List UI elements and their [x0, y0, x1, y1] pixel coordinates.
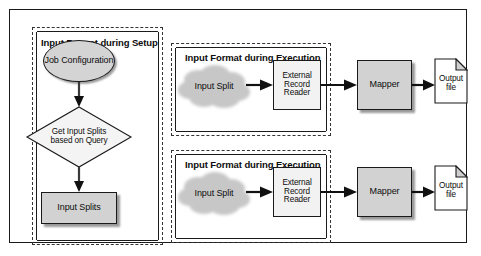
node-input-split-2: Input Split: [174, 169, 254, 219]
panel-inner-line-bottom: [176, 131, 326, 132]
arrow-right-icon-r2-3: [412, 185, 436, 199]
arrow-right-icon-r1-3: [412, 78, 436, 92]
node-external-record-reader-1-label: External Record Reader: [274, 61, 320, 109]
diagram-figure: Input Format during Setup Job Configurat…: [0, 0, 481, 256]
node-mapper-1: Mapper: [357, 60, 412, 110]
node-external-record-reader-2: External Record Reader: [273, 167, 321, 217]
node-mapper-2: Mapper: [357, 167, 412, 217]
panel-inner-line-right: [158, 32, 159, 240]
node-mapper-1-label: Mapper: [358, 61, 411, 109]
panel-inner-line-bottom: [176, 238, 326, 239]
node-input-split-1: Input Split: [174, 62, 254, 112]
panel-inner-line-top: [37, 31, 158, 32]
panel-inner-line-bottom: [37, 240, 158, 241]
arrow-right-icon-r1-1: [246, 78, 274, 92]
arrow-right-icon-r2-2: [321, 185, 358, 199]
arrow-down-icon-setup-2: [72, 167, 86, 193]
panel-inner-line-top: [176, 154, 326, 155]
node-input-splits: Input Splits: [41, 192, 117, 224]
node-job-configuration: Job Configuration: [43, 40, 115, 82]
node-external-record-reader-2-label: External Record Reader: [274, 168, 320, 216]
node-input-splits-label: Input Splits: [42, 193, 116, 223]
node-job-configuration-label: Job Configuration: [44, 41, 114, 81]
panel-inner-line-top: [176, 47, 326, 48]
node-get-input-splits: Get Input Splits based on Query: [26, 106, 132, 168]
arrow-right-icon-r1-2: [321, 78, 358, 92]
arrow-down-icon-setup-1: [72, 82, 86, 108]
node-output-file-1: Output file: [434, 58, 468, 104]
node-external-record-reader-1: External Record Reader: [273, 60, 321, 110]
node-output-file-2: Output file: [434, 165, 468, 211]
arrow-right-icon-r2-1: [246, 185, 274, 199]
diagram-outer-frame: Input Format during Setup Job Configurat…: [9, 9, 467, 243]
node-mapper-2-label: Mapper: [358, 168, 411, 216]
